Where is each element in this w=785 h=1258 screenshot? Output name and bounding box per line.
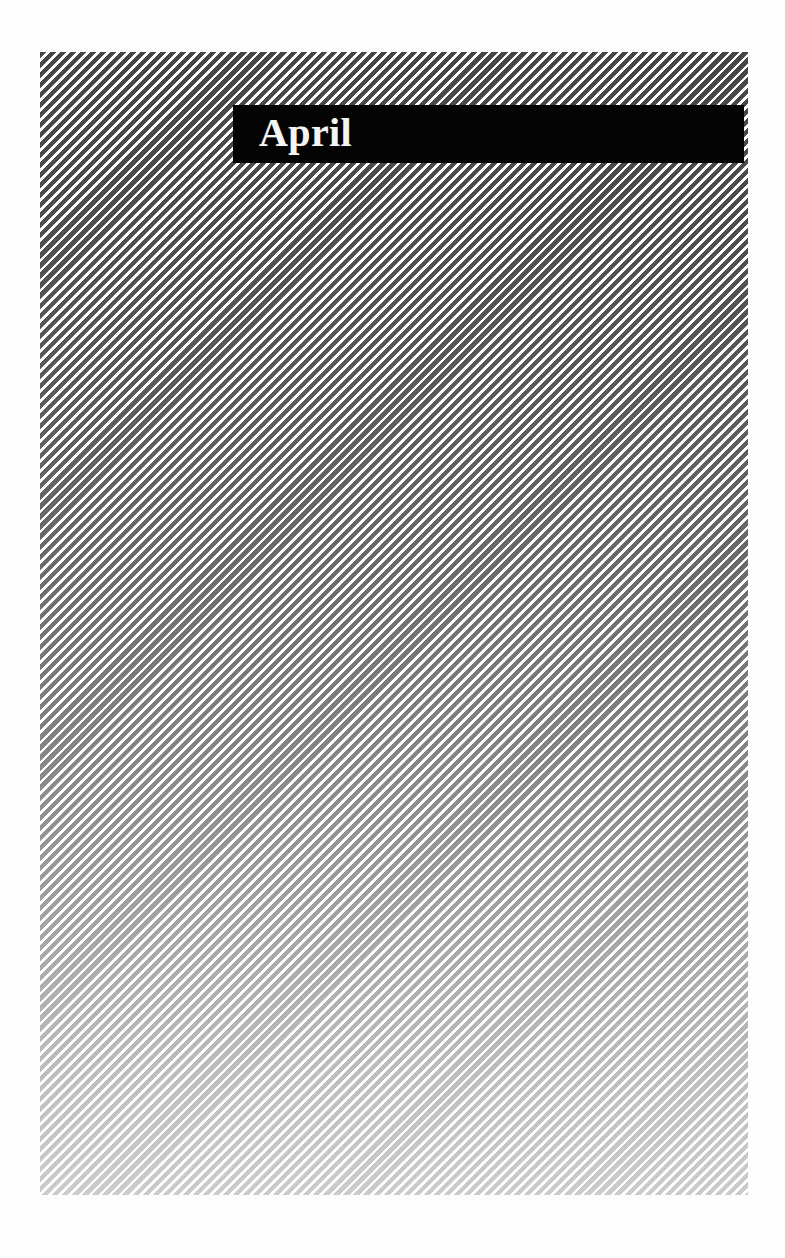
diagonal-hatch-panel	[40, 52, 748, 1195]
page-title: April	[259, 113, 352, 153]
page-canvas: April	[0, 0, 785, 1258]
hatch-stripe-layer	[40, 52, 748, 1195]
title-band: April	[233, 105, 744, 163]
